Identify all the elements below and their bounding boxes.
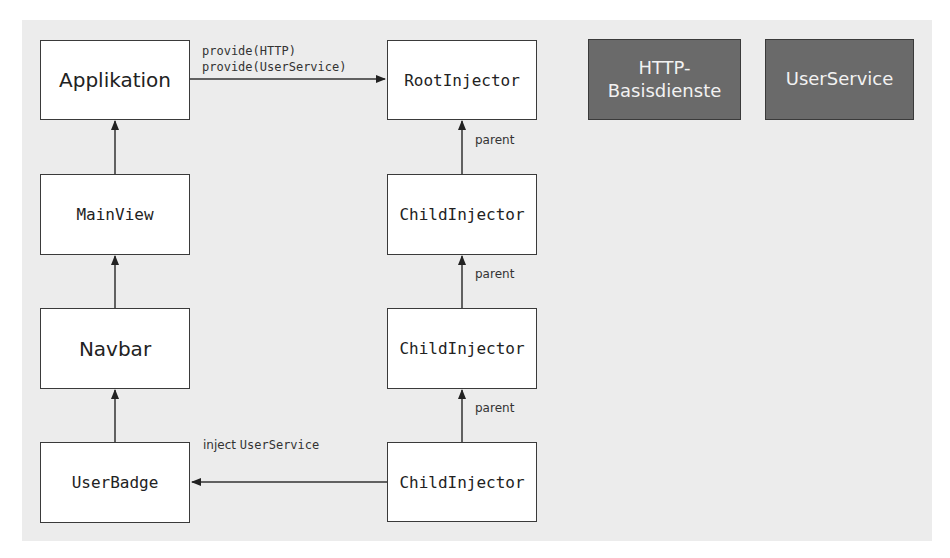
http-service-label: HTTP- Basisdienste (608, 57, 722, 102)
provide-userservice-label: provide(UserService) (202, 60, 347, 74)
child-injector-box-2: ChildInjector (387, 308, 537, 389)
applikation-box: Applikation (40, 40, 190, 120)
inject-service-name: UserService (240, 438, 319, 452)
parent-label-2: parent (475, 267, 514, 281)
root-injector-box: RootInjector (387, 40, 537, 120)
navbar-label: Navbar (79, 337, 151, 361)
child-injector-box-3: ChildInjector (387, 442, 537, 522)
inject-label: inject UserService (203, 438, 319, 452)
applikation-label: Applikation (59, 68, 171, 92)
child-injector-label-2: ChildInjector (399, 339, 524, 358)
mainview-box: MainView (40, 174, 190, 255)
root-injector-label: RootInjector (404, 71, 520, 90)
child-injector-label-3: ChildInjector (399, 473, 524, 492)
child-injector-box-1: ChildInjector (387, 174, 537, 255)
inject-word: inject (203, 438, 236, 452)
parent-label-1: parent (475, 133, 514, 147)
http-service-box: HTTP- Basisdienste (588, 39, 741, 120)
provide-http-label: provide(HTTP) (202, 44, 296, 58)
navbar-box: Navbar (40, 308, 190, 389)
userbadge-box: UserBadge (40, 442, 190, 523)
child-injector-label-1: ChildInjector (399, 205, 524, 224)
mainview-label: MainView (76, 205, 153, 224)
userservice-label: UserService (786, 68, 894, 91)
userservice-box: UserService (765, 39, 914, 120)
userbadge-label: UserBadge (72, 473, 159, 492)
parent-label-3: parent (475, 401, 514, 415)
